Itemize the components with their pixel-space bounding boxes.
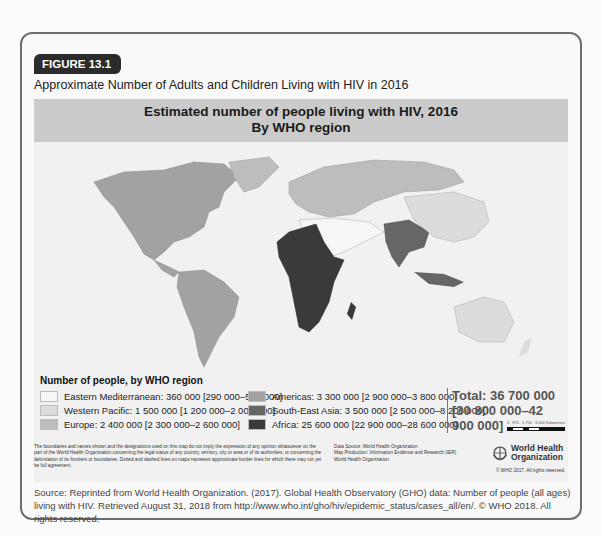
scale-bar: 0 875 1,750 3,500 Kilometers bbox=[507, 420, 565, 431]
legend-item: Western Pacific: 1 500 000 [1 200 000–2 … bbox=[40, 404, 275, 417]
legend-title: Number of people, by WHO region bbox=[40, 375, 203, 386]
who-emblem-icon bbox=[492, 445, 508, 461]
map-subtitle: By WHO region bbox=[34, 120, 568, 136]
region-americas-south bbox=[177, 270, 239, 367]
figure-tag: FIGURE 13.1 bbox=[34, 54, 121, 74]
legend-swatch bbox=[40, 419, 58, 430]
data-source: Data Source: World Health Organization M… bbox=[334, 444, 456, 463]
legend-swatch bbox=[40, 405, 58, 416]
legend-swatch bbox=[248, 405, 266, 416]
legend-swatch bbox=[248, 391, 266, 402]
region-greenland bbox=[229, 157, 279, 192]
legend-item: Eastern Mediterranean: 360 000 [290 000–… bbox=[40, 390, 282, 403]
figure-card: FIGURE 13.1 Approximate Number of Adults… bbox=[20, 32, 582, 520]
copyright: © WHO 2017. All rights reserved. bbox=[496, 468, 565, 473]
legend-item: Americas: 3 300 000 [2 900 000–3 800 000… bbox=[248, 390, 457, 403]
map-title: Estimated number of people living with H… bbox=[34, 104, 568, 120]
region-australia bbox=[454, 297, 514, 342]
map-header: Estimated number of people living with H… bbox=[34, 99, 568, 142]
region-americas-north bbox=[94, 162, 239, 260]
legend-swatch bbox=[248, 419, 266, 430]
world-map bbox=[34, 142, 568, 372]
source-citation: Source: Reprinted from World Health Orga… bbox=[34, 486, 574, 525]
map-panel: Estimated number of people living with H… bbox=[34, 99, 568, 482]
map-disclaimer: The boundaries and names shown and the d… bbox=[34, 444, 324, 469]
who-logo: World Health Organization bbox=[492, 444, 563, 462]
legend-swatch bbox=[40, 391, 58, 402]
figure-title: Approximate Number of Adults and Childre… bbox=[34, 78, 409, 92]
legend-item: Europe: 2 400 000 [2 300 000–2 600 000] bbox=[40, 418, 240, 431]
legend-item: Africa: 25 600 000 [22 900 000–28 600 00… bbox=[248, 418, 457, 431]
